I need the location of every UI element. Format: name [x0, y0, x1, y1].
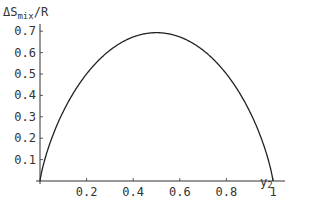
x-tick-label: 0.2 [76, 185, 98, 199]
y-tick-label: 0.4 [14, 88, 36, 102]
y-tick-label: 0.1 [14, 153, 36, 167]
entropy-curve [40, 33, 273, 181]
y-tick-label: 0.2 [14, 131, 36, 145]
y-tick-label: 0.5 [14, 67, 36, 81]
y-tick-label: 0.7 [14, 24, 36, 38]
x-tick-label: 0.6 [169, 185, 191, 199]
axes [36, 24, 285, 184]
x-tick-label: 0.4 [122, 185, 144, 199]
y-tick-label: 0.6 [14, 46, 36, 60]
y-axis-label: ΔSmix/R [3, 5, 49, 21]
y-tick-label: 0.3 [14, 110, 36, 124]
x-tick-label: 0.8 [216, 185, 238, 199]
y-ticks: 0.10.20.30.40.50.60.7 [14, 24, 43, 166]
x-axis-label: y2 [260, 175, 273, 190]
chart: 0.20.40.60.81 0.10.20.30.40.50.60.7 ΔSmi… [0, 0, 310, 204]
